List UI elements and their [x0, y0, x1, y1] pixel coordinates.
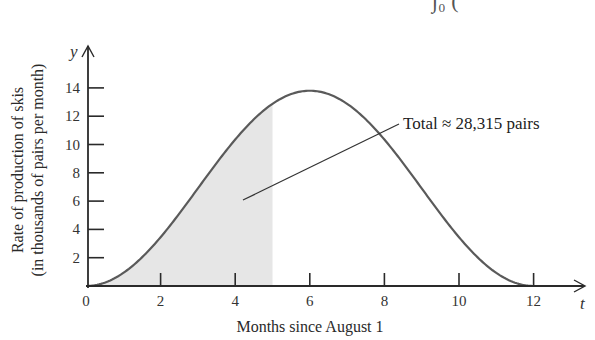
cropped-equation-fragment: ∫₀ ( [430, 0, 459, 14]
y-axis-title-line1: Rate of production of skis [9, 87, 27, 253]
x-tick-label: 0 [82, 293, 90, 309]
production-rate-chart: ∫₀ ( 024681012 2468101214 y t Months sin… [0, 0, 595, 340]
x-axis-variable: t [580, 294, 586, 313]
y-axis-title-line2: (in thousands of pairs per month) [29, 64, 47, 277]
x-tick-label: 12 [526, 293, 541, 309]
y-tick-label: 8 [73, 165, 81, 181]
total-annotation: Total ≈ 28,315 pairs [403, 114, 540, 133]
y-ticks: 2468101214 [65, 80, 104, 266]
y-tick-label: 10 [65, 137, 80, 153]
y-tick-label: 14 [65, 80, 81, 96]
y-tick-label: 4 [73, 221, 81, 237]
shaded-area-fill [86, 104, 273, 286]
y-axis-variable: y [68, 42, 78, 61]
x-axis-title: Months since August 1 [236, 318, 383, 336]
y-tick-label: 12 [65, 108, 80, 124]
x-tick-label: 4 [231, 293, 239, 309]
x-tick-label: 2 [157, 293, 165, 309]
y-tick-label: 6 [73, 193, 81, 209]
x-tick-label: 8 [381, 293, 389, 309]
x-tick-label: 6 [306, 293, 314, 309]
shaded-area [86, 104, 273, 286]
x-tick-label: 10 [452, 293, 467, 309]
y-tick-label: 2 [73, 250, 81, 266]
